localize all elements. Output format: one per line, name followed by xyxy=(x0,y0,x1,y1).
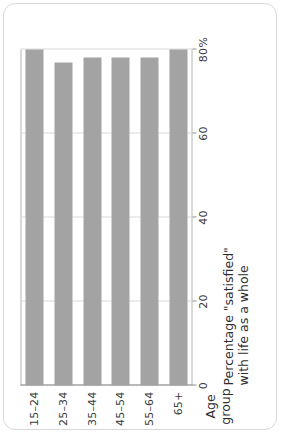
category-tick-label-3: 45–54 xyxy=(113,385,126,427)
value-axis-title-line-2: with life as a whole xyxy=(235,49,250,385)
value-tick-mark-60 xyxy=(192,132,196,133)
category-tick-label-5: 65+ xyxy=(171,385,184,427)
bar-4554 xyxy=(111,57,129,385)
value-tick-label-80: 80% xyxy=(196,26,209,72)
gridline-0 xyxy=(20,384,192,385)
gridline-20 xyxy=(20,300,192,301)
value-tick-mark-20 xyxy=(192,300,196,301)
category-tick-label-0: 15–24 xyxy=(27,385,40,427)
bar-row xyxy=(140,49,158,385)
bar-3544 xyxy=(83,57,101,385)
gridline-60 xyxy=(20,132,192,133)
value-tick-mark-40 xyxy=(192,216,196,217)
category-tick-label-2: 35–44 xyxy=(85,385,98,427)
bar-row xyxy=(111,49,129,385)
bar-2534 xyxy=(54,62,72,385)
bar-row xyxy=(169,49,187,385)
gridline-80 xyxy=(20,48,192,49)
figure-card: 020406080% 15–2425–3435–4445–5455–6465+ … xyxy=(3,3,277,430)
value-tick-label-60: 60 xyxy=(196,110,209,156)
category-axis-title: Age group xyxy=(202,385,232,427)
value-tick-label-40: 40 xyxy=(196,194,209,240)
value-tick-label-20: 20 xyxy=(196,278,209,324)
value-tick-mark-0 xyxy=(192,384,196,385)
gridline-40 xyxy=(20,216,192,217)
category-tick-label-4: 55–64 xyxy=(142,385,155,427)
bar-row xyxy=(83,49,101,385)
value-tick-mark-80 xyxy=(192,48,196,49)
category-tick-label-1: 25–34 xyxy=(56,385,69,427)
bar-row xyxy=(54,49,72,385)
bar-row xyxy=(25,49,43,385)
rotated-figure-wrapper: 020406080% 15–2425–3435–4445–5455–6465+ … xyxy=(6,6,274,427)
value-axis-title-line-1: Percentage "satisfied" xyxy=(220,49,235,385)
bar-chart-figure: 020406080% 15–2425–3435–4445–5455–6465+ … xyxy=(6,6,274,427)
bar-1524 xyxy=(25,49,43,385)
bar-5564 xyxy=(140,57,158,385)
bar-65+ xyxy=(169,49,187,385)
value-axis-title: Percentage "satisfied" with life as a wh… xyxy=(220,49,250,385)
